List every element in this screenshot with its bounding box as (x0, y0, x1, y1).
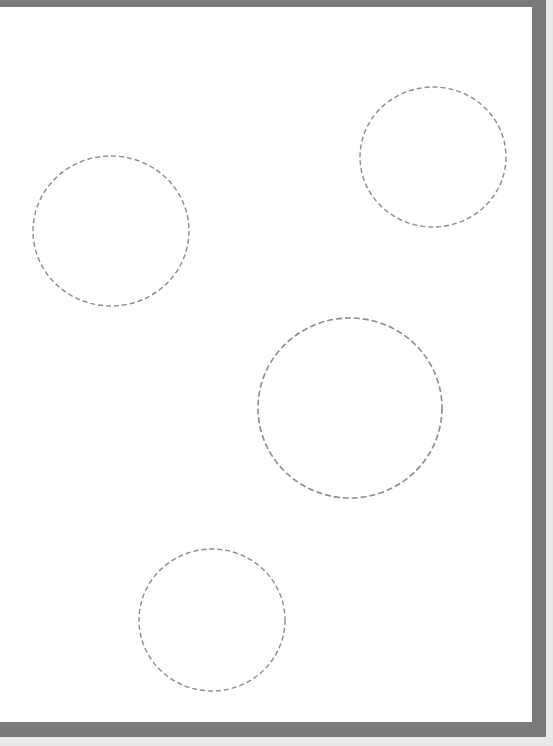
dashed-circle-2[interactable] (360, 87, 506, 227)
dashed-circle-3[interactable] (258, 318, 442, 498)
dashed-circle-1[interactable] (33, 156, 189, 306)
shapes-layer (0, 0, 553, 746)
dashed-circle-4[interactable] (139, 549, 285, 691)
stage (0, 0, 553, 746)
